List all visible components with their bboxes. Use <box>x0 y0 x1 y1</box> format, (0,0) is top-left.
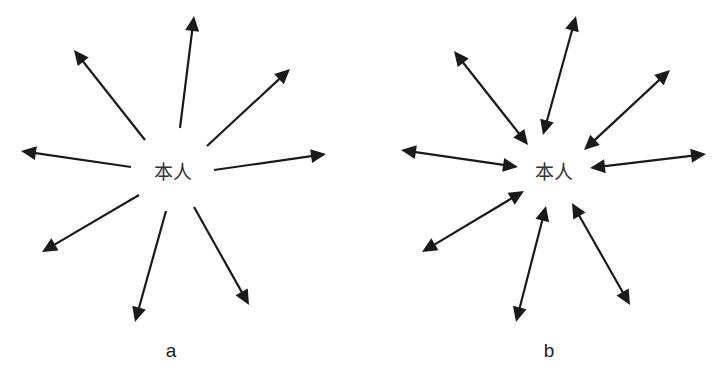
arrowhead-icon <box>310 149 326 163</box>
arrowhead-icon <box>508 191 524 205</box>
arrowhead-icon <box>535 206 549 222</box>
arrowhead-icon <box>513 306 527 322</box>
arrow-right <box>590 149 706 173</box>
arrowhead-icon <box>185 16 199 32</box>
arrow-shaft <box>207 78 280 146</box>
arrow-shaft <box>414 152 505 165</box>
arrow-shaft <box>578 214 623 293</box>
arrow-shaft <box>462 61 520 135</box>
arrowhead-icon <box>42 238 58 252</box>
arrowhead-icon <box>401 145 417 159</box>
arrow-left <box>21 146 131 167</box>
self-node-label: 本人 <box>535 161 573 183</box>
arrowhead-icon <box>690 149 706 163</box>
arrow-shaft <box>138 211 166 309</box>
arrow-upper-left <box>454 51 528 145</box>
arrowhead-icon <box>502 158 518 172</box>
arrow-lower-left <box>42 195 139 252</box>
arrowhead-icon <box>454 51 469 67</box>
arrow-shaft <box>594 79 661 141</box>
arrowhead-icon <box>74 50 89 66</box>
arrow-lower-right <box>194 207 249 305</box>
arrowhead-icon <box>422 238 438 252</box>
arrow-top <box>540 16 578 135</box>
panel-caption: a <box>166 340 177 361</box>
arrowhead-icon <box>540 119 553 135</box>
arrow-shaft <box>194 207 243 294</box>
arrow-shaft <box>82 60 145 140</box>
arrow-shaft <box>603 156 693 167</box>
arrow-shaft <box>433 198 513 246</box>
arrow-upper-right <box>584 70 670 150</box>
arrowhead-icon <box>132 306 145 322</box>
arrow-lower-left <box>422 191 524 252</box>
arrow-bottom <box>513 206 549 322</box>
relationship-diagram: 本人a 本人b <box>0 0 713 371</box>
panel-b-mutual-relations: 本人b <box>401 16 706 361</box>
arrow-left <box>401 145 518 172</box>
arrow-shaft <box>546 29 572 123</box>
arrow-shaft <box>53 195 139 245</box>
panel-caption: b <box>544 340 555 361</box>
arrow-lower-right <box>572 203 630 305</box>
arrowhead-icon <box>590 159 606 173</box>
arrowhead-icon <box>565 16 578 32</box>
arrow-bottom <box>132 211 166 322</box>
arrow-shaft <box>214 156 313 170</box>
arrowhead-icon <box>21 146 37 160</box>
arrowhead-icon <box>513 129 528 145</box>
panel-a-outward-relations: 本人a <box>21 16 326 361</box>
self-node-label: 本人 <box>154 161 192 183</box>
arrow-right <box>214 149 326 170</box>
arrow-shaft <box>180 29 192 128</box>
arrow-upper-right <box>207 69 290 146</box>
arrow-shaft <box>34 153 131 167</box>
arrow-upper-left <box>74 50 145 140</box>
arrow-top <box>180 16 199 128</box>
arrow-shaft <box>519 219 542 310</box>
